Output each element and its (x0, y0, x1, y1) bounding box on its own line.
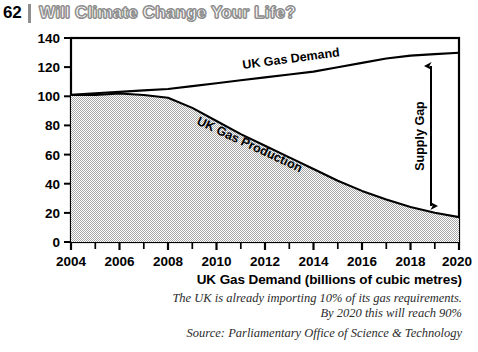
y-tick-label-80: 80 (45, 118, 60, 133)
caption-block: UK Gas Demand (billions of cubic metres)… (0, 272, 470, 341)
y-tick-label-40: 40 (45, 177, 60, 192)
y-tick-0: 0 (52, 235, 71, 250)
y-tick-140: 140 (37, 31, 71, 46)
x-tick-2012: 2012 (250, 242, 280, 269)
page-number: 62 (3, 3, 21, 23)
y-tick-label-140: 140 (37, 31, 60, 46)
x-tick-2006: 2006 (104, 242, 135, 269)
page-title: Will Climate Change Your Life? (39, 3, 295, 23)
x-tick-label-2016: 2016 (347, 254, 378, 269)
x-axis: 2004 2006 2008 2010 2012 2014 (56, 242, 472, 269)
y-tick-label-120: 120 (37, 60, 60, 75)
x-tick-label-2004: 2004 (56, 254, 87, 269)
y-tick-label-60: 60 (45, 148, 60, 163)
y-tick-20: 20 (45, 206, 71, 221)
y-axis: 0 20 40 60 80 100 (37, 31, 71, 250)
x-tick-2018: 2018 (395, 242, 426, 269)
x-tick-label-2008: 2008 (153, 254, 184, 269)
y-tick-80: 80 (45, 118, 71, 133)
y-tick-120: 120 (37, 60, 71, 75)
x-tick-label-2006: 2006 (104, 254, 135, 269)
x-tick-2020: 2020 (442, 242, 472, 269)
page-header: 62 Will Climate Change Your Life? (0, 0, 478, 26)
y-tick-100: 100 (37, 89, 71, 104)
caption-source: Source: Parliamentary Office of Science … (0, 326, 462, 341)
x-tick-2004: 2004 (56, 242, 87, 269)
gas-supply-gap-chart: 0 20 40 60 80 100 (0, 26, 478, 276)
x-tick-2008: 2008 (153, 242, 184, 269)
caption-line-2: By 2020 this will reach 90% (0, 306, 462, 321)
caption-line-1: The UK is already importing 10% of its g… (0, 291, 462, 306)
y-tick-label-0: 0 (52, 235, 60, 250)
x-tick-2016: 2016 (347, 242, 378, 269)
x-tick-label-2012: 2012 (250, 254, 280, 269)
x-tick-label-2010: 2010 (201, 254, 231, 269)
x-tick-label-2018: 2018 (395, 254, 426, 269)
y-tick-label-20: 20 (45, 206, 60, 221)
x-tick-label-2014: 2014 (298, 254, 329, 269)
y-tick-60: 60 (45, 148, 71, 163)
supply-gap-label: Supply Gap (413, 101, 427, 171)
y-tick-40: 40 (45, 177, 71, 192)
x-tick-2010: 2010 (201, 242, 231, 269)
x-tick-label-2020: 2020 (442, 254, 472, 269)
header-divider (28, 4, 31, 23)
x-tick-2014: 2014 (298, 242, 329, 269)
y-tick-label-100: 100 (37, 89, 60, 104)
chart-axis-title: UK Gas Demand (billions of cubic metres) (0, 272, 462, 287)
